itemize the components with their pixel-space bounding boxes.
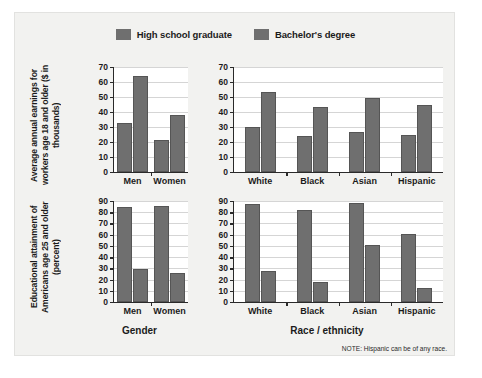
bar xyxy=(170,115,185,172)
bar xyxy=(349,132,364,172)
x-axis-tick xyxy=(339,302,340,306)
bar-group: Hispanic xyxy=(391,67,443,172)
bar xyxy=(349,203,364,302)
y-axis-tick-label: 70 xyxy=(99,218,108,228)
y-axis-tick-label: 40 xyxy=(219,252,228,262)
y-axis-tick-label: 70 xyxy=(219,62,228,72)
panel-earnings-by-gender: 010203040506070MenWomen xyxy=(87,61,192,189)
y-axis-tick-label: 40 xyxy=(99,252,108,262)
bar-group: Asian xyxy=(339,67,391,172)
bar xyxy=(313,107,328,172)
y-axis-tick-label: 30 xyxy=(219,263,228,273)
y-axis-tick-label: 20 xyxy=(219,275,228,285)
bars-container: WhiteBlackAsianHispanic xyxy=(234,67,443,172)
bar xyxy=(417,288,432,302)
y-axis-tick-label: 0 xyxy=(223,167,228,177)
bar xyxy=(365,245,380,302)
bar xyxy=(245,127,260,172)
bar xyxy=(133,269,148,302)
bars-container: MenWomen xyxy=(114,67,188,172)
y-axis-tick-label: 30 xyxy=(99,122,108,132)
y-axis-tick-label: 80 xyxy=(99,207,108,217)
y-axis-tick-label: 60 xyxy=(99,77,108,87)
bar-group: Black xyxy=(286,201,338,302)
bar xyxy=(117,207,132,302)
bar xyxy=(261,92,276,172)
x-axis-tick xyxy=(391,172,392,176)
y-axis-tick-label: 60 xyxy=(219,230,228,240)
bars-container: MenWomen xyxy=(114,201,188,302)
y-axis-title-attainment: Educational attainment of Americans age … xyxy=(29,195,65,319)
y-axis-tick-label: 10 xyxy=(219,152,228,162)
x-axis-tick-label: Asian xyxy=(352,176,377,186)
bar-group: Men xyxy=(114,201,151,302)
x-axis-tick xyxy=(339,172,340,176)
bar xyxy=(401,135,416,172)
bars-container: WhiteBlackAsianHispanic xyxy=(234,201,443,302)
y-axis-tick-label: 50 xyxy=(99,92,108,102)
x-axis-tick-label: White xyxy=(248,176,273,186)
x-axis-tick-label: Women xyxy=(153,306,185,316)
plot-area: 0102030405060708090WhiteBlackAsianHispan… xyxy=(233,201,443,303)
bar xyxy=(245,204,260,302)
plot-area: 0102030405060708090MenWomen xyxy=(113,201,188,303)
y-axis-title-earnings: Average annual earnings for workers age … xyxy=(29,61,65,189)
y-axis-tick-label: 60 xyxy=(99,230,108,240)
x-axis-tick xyxy=(151,172,152,176)
y-axis-tick-label: 90 xyxy=(99,196,108,206)
x-axis-tick xyxy=(286,302,287,306)
bar-group: Hispanic xyxy=(391,201,443,302)
bar xyxy=(297,136,312,172)
bar xyxy=(133,76,148,172)
y-axis-tick-label: 0 xyxy=(103,167,108,177)
x-axis-title-race: Race / ethnicity xyxy=(207,325,447,336)
x-axis-tick-label: Asian xyxy=(352,306,377,316)
legend-entry-bachelors-degree: Bachelor's degree xyxy=(254,29,355,40)
x-axis-title-gender: Gender xyxy=(87,325,192,336)
bar xyxy=(170,273,185,302)
bar xyxy=(401,234,416,302)
legend-swatch-icon xyxy=(116,29,131,40)
y-axis-tick-label: 40 xyxy=(219,107,228,117)
bar xyxy=(117,123,132,172)
bar-group: White xyxy=(234,201,286,302)
y-axis-tick xyxy=(110,302,114,303)
bar-group: Asian xyxy=(339,201,391,302)
bar xyxy=(297,210,312,302)
x-axis-tick-label: Black xyxy=(300,176,324,186)
bar xyxy=(154,140,169,172)
y-axis-tick xyxy=(230,172,234,173)
bar xyxy=(154,206,169,302)
y-axis-tick-label: 70 xyxy=(99,62,108,72)
y-axis-tick-label: 0 xyxy=(103,297,108,307)
y-axis-tick xyxy=(230,302,234,303)
y-axis-tick-label: 20 xyxy=(99,137,108,147)
y-axis-tick-label: 20 xyxy=(99,275,108,285)
y-axis-tick xyxy=(110,172,114,173)
x-axis-tick xyxy=(286,172,287,176)
y-axis-tick-label: 80 xyxy=(219,207,228,217)
y-axis-tick-label: 50 xyxy=(219,92,228,102)
y-axis-tick-label: 0 xyxy=(223,297,228,307)
chart-legend: High school graduate Bachelor's degree xyxy=(15,29,456,40)
legend-swatch-icon xyxy=(254,29,269,40)
bar xyxy=(365,98,380,172)
chart-note: NOTE: Hispanic can be of any race. xyxy=(207,345,447,352)
y-axis-tick-label: 20 xyxy=(219,137,228,147)
x-axis-tick-label: White xyxy=(248,306,273,316)
x-axis-tick-label: Hispanic xyxy=(398,176,436,186)
plot-area: 010203040506070MenWomen xyxy=(113,67,188,173)
x-axis-tick-label: Black xyxy=(300,306,324,316)
bar xyxy=(261,271,276,302)
legend-entry-high-school-graduate: High school graduate xyxy=(116,29,232,40)
y-axis-tick-label: 10 xyxy=(219,286,228,296)
bar xyxy=(417,105,432,172)
bar xyxy=(313,282,328,302)
panel-attainment-by-gender: 0102030405060708090MenWomen xyxy=(87,195,192,319)
x-axis-tick-label: Hispanic xyxy=(398,306,436,316)
y-axis-tick-label: 50 xyxy=(219,241,228,251)
bar-group: White xyxy=(234,67,286,172)
bar-group: Women xyxy=(151,201,188,302)
plot-area: 010203040506070WhiteBlackAsianHispanic xyxy=(233,67,443,173)
y-axis-tick-label: 40 xyxy=(99,107,108,117)
